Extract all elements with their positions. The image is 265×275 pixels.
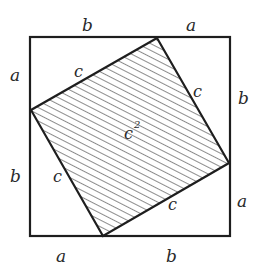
label-right-a: a [237,191,247,211]
label-left-b: b [10,166,21,186]
pythagorean-diagram: b a a b b a a b c c c c c 2 [0,0,265,275]
label-left-a: a [10,65,20,85]
label-bottom-a: a [56,246,66,266]
label-top-b: b [82,15,93,35]
label-area-exponent: 2 [133,119,140,130]
label-hyp-bottom-left: c [53,167,62,186]
label-top-a: a [186,15,196,35]
label-hyp-bottom-right: c [168,195,177,214]
label-bottom-b: b [166,246,177,266]
label-area-c: c [124,124,133,143]
label-hyp-top-right: c [193,82,202,101]
label-hyp-top-left: c [74,62,83,81]
label-right-b: b [238,88,249,108]
